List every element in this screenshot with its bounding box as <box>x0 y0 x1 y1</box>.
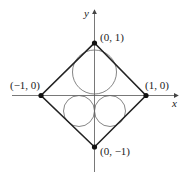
label-right: (1, 0) <box>145 79 169 92</box>
point-left <box>38 93 43 98</box>
point-right <box>143 93 148 98</box>
x-axis-label: x <box>171 97 177 109</box>
point-top <box>92 40 97 45</box>
y-axis-label: y <box>83 7 89 19</box>
square <box>41 43 146 147</box>
label-bottom: (0, −1) <box>100 145 130 158</box>
label-top: (0, 1) <box>100 31 124 44</box>
lower-right-circle <box>95 96 126 127</box>
label-left: (−1, 0) <box>10 79 40 92</box>
point-bottom <box>92 144 97 149</box>
diagram-canvas: y x (0, 1) (1, 0) (−1, 0) (0, −1) <box>0 0 190 182</box>
